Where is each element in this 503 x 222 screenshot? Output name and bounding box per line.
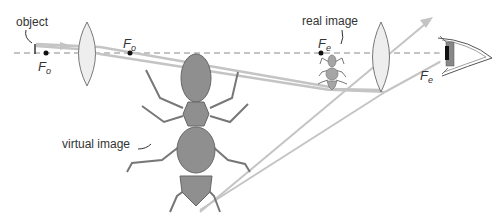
focal-label-objective-left: Fo <box>38 59 51 76</box>
real-image-pointer <box>341 30 343 44</box>
focal-point-dot <box>44 51 49 56</box>
virtual-image-pointer <box>138 144 151 149</box>
eye-icon <box>438 36 492 76</box>
eyepiece-lens <box>373 22 390 92</box>
object-pointer <box>26 30 32 43</box>
focal-label-objective-right: Fo <box>123 36 136 53</box>
objective-lens <box>79 22 96 86</box>
focal-point-dot <box>319 51 324 56</box>
focal-label-eyepiece-right: Fe <box>420 68 433 85</box>
microscope-diagram: object real image virtual image Fo Fo Fe… <box>0 0 503 222</box>
focal-label-eyepiece-left: Fe <box>318 36 331 53</box>
object-label: object <box>16 15 49 29</box>
real-image-label: real image <box>302 14 358 28</box>
virtual-image-label: virtual image <box>62 137 130 151</box>
virtual-image-ant <box>127 54 250 212</box>
